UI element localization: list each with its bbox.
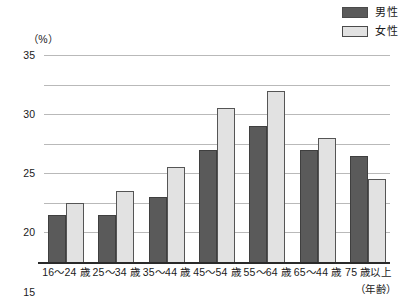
legend-label-male: 男性 [375,7,398,18]
y-axis-tick-label: 15 [23,286,35,297]
bar-male [48,215,66,262]
y-axis-tick-label: 30 [23,109,35,120]
legend-item-male: 男性 [342,6,398,19]
bar-group [300,55,336,262]
bar-male [300,150,318,262]
bar-female [318,138,336,262]
bar-group [98,55,134,262]
x-axis-title: （年齢） [355,283,396,295]
plot-area: 05101520253035 [44,55,390,262]
legend-item-female: 女性 [342,25,398,38]
y-axis-tick-label: 35 [23,50,35,61]
y-axis-tick-label: 20 [23,227,35,238]
y-axis-tick-label: 25 [23,168,35,179]
x-axis-tick-label: 16〜24 歳 [42,266,90,279]
y-axis-unit-label: （%） [28,31,58,46]
bar-female [368,179,386,262]
bar-male [199,150,217,262]
bar-group [48,55,84,262]
bar-group [149,55,185,262]
x-axis-tick-label: 25〜34 歳 [92,266,140,279]
x-axis-tick-label: 75 歳以上 [345,266,391,279]
x-axis-tick-label: 45〜54 歳 [193,266,241,279]
bar-group [199,55,235,262]
bar-male [149,197,167,262]
x-axis-tick-label: 35〜44 歳 [143,266,191,279]
bar-female [116,191,134,262]
legend-swatch-female-icon [342,26,368,37]
bar-male [98,215,116,262]
bar-female [267,91,285,263]
bar-male [350,156,368,262]
bar-group [350,55,386,262]
bar-male [249,126,267,262]
legend-swatch-male-icon [342,7,368,18]
legend-label-female: 女性 [375,26,398,37]
bars-group [44,55,390,262]
bar-chart: 男性 女性 （%） 05101520253035 16〜24 歳25〜34 歳3… [0,0,410,307]
bar-female [217,108,235,262]
bar-female [167,167,185,262]
bar-female [66,203,84,262]
chart-legend: 男性 女性 [342,6,398,38]
axis-baseline: 0 [38,262,390,264]
x-axis-tick-label: 55〜64 歳 [243,266,291,279]
bar-group [249,55,285,262]
x-axis-tick-label: 65〜44 歳 [294,266,342,279]
x-axis-labels: 16〜24 歳25〜34 歳35〜44 歳45〜54 歳55〜64 歳65〜44… [44,266,390,282]
